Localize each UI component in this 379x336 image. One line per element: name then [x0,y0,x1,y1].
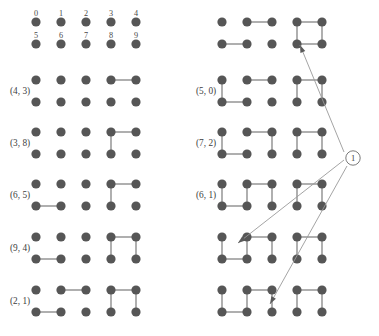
node-0 [217,127,226,136]
graph-cell-left-3: (6, 5) [10,179,141,210]
graph-cell-right-3-label: (7, 2) [196,138,216,149]
node-1 [242,285,251,294]
graph-cell-left-1: (4, 3) [10,75,141,106]
node-5 [217,149,226,158]
node-4 [317,179,326,188]
node-2 [81,285,90,294]
node-5 [31,254,40,263]
graph-cell-left-4-label: (9, 4) [10,243,30,254]
graph-cell-right-3: (7, 2) [196,127,327,158]
node-index-label-2: 2 [84,9,88,18]
graph-cell-left-5-label: (2, 1) [10,296,30,307]
node-4 [131,127,140,136]
node-0 [31,127,40,136]
node-2 [267,127,276,136]
callout-arrow-to-graph-right-5-line [238,160,344,243]
node-7 [81,201,90,210]
node-9 [131,254,140,263]
node-4 [317,75,326,84]
node-7 [267,307,276,316]
node-0 [31,75,40,84]
graph-cell-right-2-label: (5, 0) [196,86,216,97]
graph-cell-right-4: (6, 1) [196,179,327,210]
graph-cell-left-2-label: (3, 8) [10,138,30,149]
graph-cell-left-1-label: (4, 3) [10,86,30,97]
node-3 [292,232,301,241]
legend-node-1 [56,17,65,26]
graph-cell-right-4-label: (6, 1) [196,190,216,201]
legend-node-4 [131,17,140,26]
node-2 [267,179,276,188]
callout-arrow-to-graph-right-6-line [270,166,347,304]
node-9 [317,149,326,158]
node-4 [131,232,140,241]
node-index-label-4: 4 [134,9,138,18]
node-9 [131,201,140,210]
node-9 [317,307,326,316]
node-1 [242,127,251,136]
node-7 [81,149,90,158]
node-7 [267,97,276,106]
node-5 [31,149,40,158]
graph-cell-left-3-label: (6, 5) [10,190,30,201]
node-index-label-6: 6 [59,31,63,40]
node-9 [317,254,326,263]
node-1 [56,75,65,84]
node-0 [31,285,40,294]
callout-arrow-to-graph-right-5 [238,160,344,243]
node-6 [56,149,65,158]
legend-node-9 [131,39,140,48]
node-8 [106,149,115,158]
node-2 [81,75,90,84]
graph-cell-right-1 [217,17,326,48]
legend-node-6 [56,39,65,48]
node-3 [106,285,115,294]
legend-node-8 [106,39,115,48]
node-4 [131,75,140,84]
node-9 [317,39,326,48]
node-3 [106,127,115,136]
callout-marker-1-text: 1 [351,153,355,163]
node-0 [217,17,226,26]
node-3 [106,232,115,241]
callout-arrow-to-top-right-graph-head [300,45,305,53]
node-index-label-1: 1 [59,9,63,18]
legend-node-0 [31,17,40,26]
node-6 [56,307,65,316]
legend-node-2 [81,17,90,26]
node-4 [317,17,326,26]
node-index-label-9: 9 [134,31,138,40]
left-column-group: (4, 3)(3, 8)(6, 5)(9, 4)(2, 1) [10,75,141,316]
callout-arrow-to-graph-right-6-head [270,296,276,304]
node-6 [242,254,251,263]
node-index-label-5: 5 [34,31,38,40]
node-5 [31,97,40,106]
node-7 [267,149,276,158]
node-6 [242,201,251,210]
node-index-label-0: 0 [34,9,38,18]
node-6 [242,97,251,106]
node-3 [292,75,301,84]
node-2 [267,17,276,26]
graph-cell-right-2: (5, 0) [196,75,327,106]
node-9 [317,201,326,210]
graph-cell-left-5: (2, 1) [10,285,141,316]
node-1 [242,75,251,84]
node-9 [131,97,140,106]
node-8 [106,254,115,263]
node-5 [217,97,226,106]
node-3 [292,127,301,136]
node-8 [292,149,301,158]
node-8 [292,97,301,106]
node-1 [56,127,65,136]
node-3 [292,17,301,26]
node-6 [242,39,251,48]
node-index-label-3: 3 [109,9,113,18]
graph-cell-left-2: (3, 8) [10,127,141,158]
node-3 [292,285,301,294]
node-1 [56,285,65,294]
graph-cell-left-4: (9, 4) [10,232,141,263]
node-4 [317,285,326,294]
node-5 [217,39,226,48]
node-0 [217,179,226,188]
